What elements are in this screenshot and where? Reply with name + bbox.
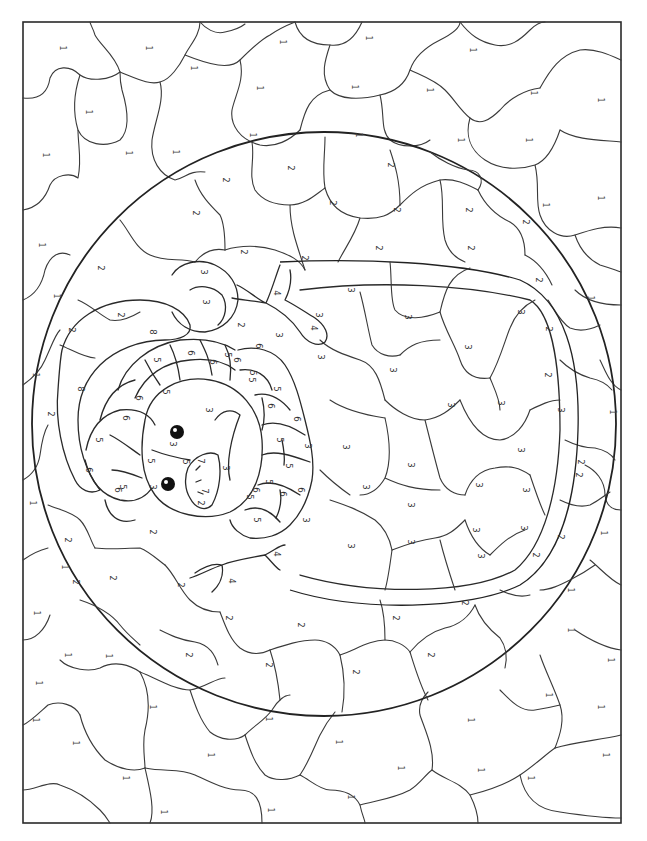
region-label-shell-band-b: 6 — [134, 395, 144, 400]
region-label-background: 1 — [31, 717, 40, 722]
region-label-shell-band-b: 6 — [296, 487, 306, 492]
region-label-ring: 2 — [426, 652, 436, 657]
region-label-background: 1 — [171, 149, 180, 154]
region-label-egg-and-body: 3 — [201, 299, 211, 304]
region-label-background: 1 — [544, 692, 553, 697]
region-number-labels: 1111111111111111111111111111111111111111… — [28, 35, 617, 814]
region-label-ring: 2 — [71, 579, 81, 584]
region-label-egg-and-body: 3 — [301, 517, 311, 522]
region-label-background: 1 — [596, 97, 605, 102]
region-label-shell-band-a: 5 — [223, 352, 233, 357]
region-label-background: 1 — [159, 809, 168, 814]
region-label-background: 1 — [468, 47, 477, 52]
region-label-background: 1 — [71, 740, 80, 745]
eye-upper-highlight — [173, 428, 177, 432]
region-label-shell-band-a: 5 — [272, 386, 282, 391]
region-label-wing: 8 — [148, 329, 158, 334]
region-label-background: 1 — [121, 775, 130, 780]
region-label-background: 1 — [144, 45, 153, 50]
region-label-shell-band-a: 5 — [247, 377, 257, 382]
region-label-egg-and-body: 3 — [199, 269, 209, 274]
chick-head — [142, 379, 262, 516]
region-label-ring: 2 — [264, 662, 274, 667]
coloring-page: 1111111111111111111111111111111111111111… — [0, 0, 647, 841]
region-label-ring: 2 — [392, 207, 402, 212]
region-label-background: 1 — [37, 242, 46, 247]
region-label-ring: 2 — [224, 615, 234, 620]
region-label-egg-and-body: 3 — [388, 367, 398, 372]
region-label-egg-and-body: 3 — [346, 543, 356, 548]
region-label-egg-and-body: 3 — [556, 407, 566, 412]
region-label-wing: 8 — [76, 386, 86, 391]
region-label-background: 1 — [58, 45, 67, 50]
foot-bottom — [190, 545, 285, 592]
region-label-feet: 4 — [272, 551, 282, 556]
region-label-ring: 2 — [108, 575, 118, 580]
region-label-ring: 2 — [236, 322, 246, 327]
region-label-ring: 2 — [374, 245, 384, 250]
region-label-background: 1 — [84, 109, 93, 114]
region-label-background: 1 — [255, 85, 264, 90]
region-label-shell-band-b: 6 — [251, 487, 261, 492]
region-label-background: 1 — [148, 704, 157, 709]
region-label-egg-and-body: 3 — [476, 553, 486, 558]
region-label-background: 1 — [354, 132, 363, 137]
region-label-background: 1 — [334, 739, 343, 744]
region-label-background: 1 — [526, 775, 535, 780]
region-label-background: 1 — [456, 137, 465, 142]
region-label-background: 1 — [364, 35, 373, 40]
region-label-shell-band-b: 6 — [84, 467, 94, 472]
region-label-egg-and-body: 3 — [341, 444, 351, 449]
region-label-shell-band-b: 6 — [186, 350, 196, 355]
region-label-ring: 2 — [556, 534, 566, 539]
region-label-shell-band-a: 5 — [284, 463, 294, 468]
region-label-feet: 4 — [272, 290, 282, 295]
region-label-shell-band-b: 6 — [278, 491, 288, 496]
region-label-background: 1 — [28, 500, 37, 505]
region-label-ring: 2 — [239, 249, 249, 254]
region-label-background: 1 — [586, 295, 595, 300]
region-label-ring: 2 — [191, 210, 201, 215]
region-label-background: 1 — [350, 84, 359, 89]
region-label-ring: 2 — [148, 529, 158, 534]
region-label-background: 1 — [104, 653, 113, 658]
region-label-egg-and-body: 3 — [406, 502, 416, 507]
region-label-ring: 2 — [67, 327, 77, 332]
region-label-shell-band-b: 6 — [208, 359, 218, 364]
region-label-egg-and-body: 3 — [361, 484, 371, 489]
region-label-background: 1 — [425, 87, 434, 92]
region-label-background: 1 — [189, 65, 198, 70]
region-label-ring: 2 — [574, 472, 584, 477]
region-label-egg-and-body: 3 — [474, 482, 484, 487]
region-label-shell-band-b: 6 — [121, 415, 131, 420]
region-label-shell-band-b: 6 — [266, 403, 276, 408]
shell-band-right — [230, 348, 313, 538]
region-label-beak: 7 — [200, 488, 210, 493]
region-label-background: 1 — [466, 717, 475, 722]
region-label-ring: 2 — [460, 600, 470, 605]
region-label-background: 1 — [596, 704, 605, 709]
region-label-ring: 2 — [521, 219, 531, 224]
region-label-ring: 2 — [534, 277, 544, 282]
region-label-background: 1 — [63, 652, 72, 657]
region-label-background: 1 — [608, 409, 617, 414]
region-label-ring: 2 — [46, 411, 56, 416]
region-label-background: 1 — [596, 195, 605, 200]
region-label-background: 1 — [248, 132, 257, 137]
region-label-shell-band-b: 6 — [292, 416, 302, 421]
region-label-shell-band-a: 5 — [161, 389, 171, 394]
coloring-canvas: 1111111111111111111111111111111111111111… — [0, 0, 647, 841]
region-label-background: 1 — [541, 202, 550, 207]
region-label-shell-band-a: 5 — [181, 459, 191, 464]
region-label-background: 1 — [476, 767, 485, 772]
region-label-egg-and-body: 3 — [521, 487, 531, 492]
region-label-background: 1 — [606, 657, 615, 662]
region-label-egg-and-body: 3 — [463, 344, 473, 349]
region-label-ring: 2 — [176, 582, 186, 587]
region-label-background: 1 — [524, 137, 533, 142]
region-label-background: 1 — [396, 765, 405, 770]
region-label-background: 1 — [529, 90, 538, 95]
region-label-egg-and-body: 3 — [303, 443, 313, 448]
region-label-background: 1 — [266, 807, 275, 812]
region-label-ring: 2 — [466, 245, 476, 250]
